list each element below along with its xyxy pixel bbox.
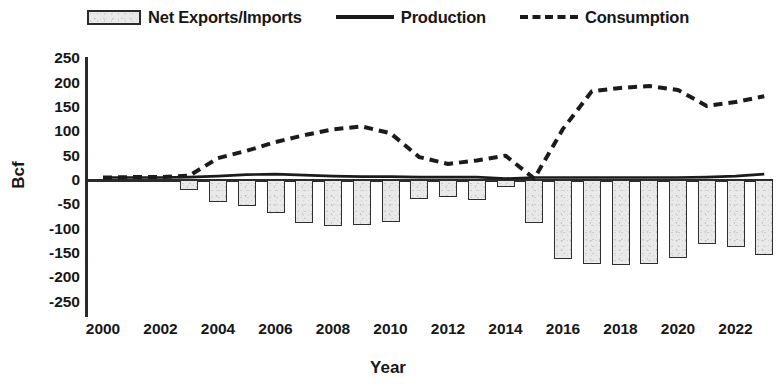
chart-container: Net Exports/Imports Production Consumpti… <box>0 0 776 387</box>
line-production <box>103 174 764 178</box>
line-series-layer <box>0 0 776 387</box>
line-consumption <box>103 86 764 179</box>
